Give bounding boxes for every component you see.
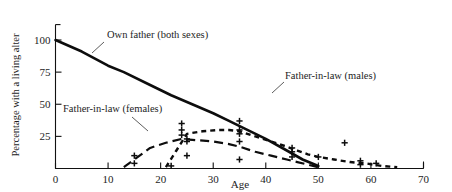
axis-lines <box>56 25 424 169</box>
series-annotation-label: Father-in-law (females) <box>63 103 163 115</box>
x-tick-label: 0 <box>53 173 59 185</box>
data-point-marker <box>179 120 185 126</box>
data-point-marker <box>342 140 348 146</box>
y-axis-title: Percentage with a living alter <box>10 33 21 157</box>
annotation-leader-line <box>92 42 104 53</box>
data-point-marker <box>236 118 242 124</box>
y-tick-label: 75 <box>40 66 52 78</box>
y-tick-label: 25 <box>40 130 52 142</box>
x-tick-label: 50 <box>313 173 325 185</box>
data-point-marker <box>179 132 185 138</box>
x-tick-label: 10 <box>103 173 115 185</box>
x-tick-label: 70 <box>418 173 430 185</box>
x-tick-label: 20 <box>155 173 167 185</box>
series-annotation-label: Father-in-law (males) <box>285 70 377 82</box>
x-tick-label: 30 <box>208 173 220 185</box>
x-tick-label: 40 <box>260 173 272 185</box>
y-axis-tick-labels: 255075100 <box>34 34 51 142</box>
y-tick-label: 50 <box>40 98 52 110</box>
y-tick-label: 100 <box>34 34 51 46</box>
percentage-with-living-alter-line-chart: 010203040506070 255075100 Own father (bo… <box>0 0 452 192</box>
x-tick-label: 60 <box>365 173 377 185</box>
annotation-leader-line <box>132 117 148 131</box>
series-annotation-label: Own father (both sexes) <box>107 29 209 41</box>
data-point-marker <box>131 160 137 166</box>
annotation-leader-line <box>272 82 284 93</box>
chart-figure: 010203040506070 255075100 Own father (bo… <box>0 0 452 192</box>
data-point-marker <box>184 153 190 159</box>
data-point-marker <box>236 156 242 162</box>
chart-annotation-leaders <box>92 42 284 131</box>
x-axis-title: Age <box>231 178 249 190</box>
chart-axes <box>56 25 424 169</box>
data-point-marker <box>315 154 321 160</box>
chart-series-annotations: Own father (both sexes)Father-in-law (fe… <box>63 29 377 115</box>
data-point-marker <box>236 138 242 144</box>
